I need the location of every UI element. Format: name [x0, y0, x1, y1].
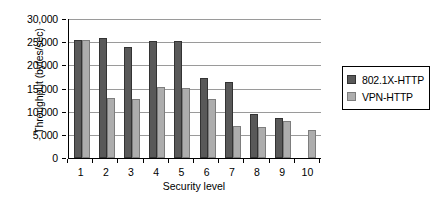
x-tick-label: 4	[144, 159, 169, 181]
x-tick-mark	[218, 159, 219, 163]
y-tick-label: 20,000	[27, 59, 58, 71]
bar	[157, 87, 165, 158]
bar	[174, 41, 182, 158]
x-tick-text: 2	[103, 166, 109, 178]
x-axis-label: Security level	[68, 180, 320, 192]
x-tick-mark	[92, 159, 93, 163]
y-tick-mark	[62, 42, 66, 43]
x-tick-label: 5	[169, 159, 194, 181]
y-tick-mark	[62, 65, 66, 66]
bar	[308, 130, 316, 158]
bar-group	[94, 19, 119, 158]
y-tick-mark	[62, 158, 66, 159]
bar	[99, 38, 107, 158]
bar-group	[271, 19, 296, 158]
legend-item: 802.1X-HTTP	[347, 71, 424, 88]
x-tick-text: 3	[128, 166, 134, 178]
legend-swatch-icon	[347, 75, 356, 84]
x-tick-text: 8	[254, 166, 260, 178]
legend-item: VPN-HTTP	[347, 88, 424, 105]
y-tick-mark	[62, 112, 66, 113]
y-tick-label: 10,000	[27, 106, 58, 118]
y-tick-label: 0	[52, 152, 58, 164]
plot-area	[68, 19, 321, 159]
x-tick-label: 6	[194, 159, 219, 181]
y-tick-mark	[62, 135, 66, 136]
bar	[233, 126, 241, 158]
x-tick-text: 9	[279, 166, 285, 178]
bar-chart-figure: Throughput (bytes/sec) 05,00010,00015,00…	[0, 0, 440, 204]
bar-groups	[69, 19, 321, 158]
x-tick-text: 1	[78, 166, 84, 178]
bar	[124, 47, 132, 158]
x-tick-mark	[168, 159, 169, 163]
legend-item-label: VPN-HTTP	[362, 91, 413, 103]
x-tick-label: 8	[244, 159, 269, 181]
x-tick-label: 2	[93, 159, 118, 181]
bar	[275, 118, 283, 158]
bar-group	[245, 19, 270, 158]
y-tick-mark	[62, 19, 66, 20]
x-tick-mark	[243, 159, 244, 163]
y-tick-label: 30,000	[27, 13, 58, 25]
x-axis-tick-labels: 12345678910	[68, 159, 320, 181]
y-tick-label: 25,000	[27, 36, 58, 48]
bar	[200, 78, 208, 158]
bar	[283, 121, 291, 158]
x-tick-mark	[117, 159, 118, 163]
bar	[149, 41, 157, 158]
x-tick-label: 1	[68, 159, 93, 181]
bar-group	[145, 19, 170, 158]
x-tick-mark	[193, 159, 194, 163]
bar	[182, 88, 190, 158]
bar-group	[69, 19, 94, 158]
bar-group	[195, 19, 220, 158]
bar	[258, 127, 266, 159]
x-tick-label: 3	[118, 159, 143, 181]
y-tick-mark	[62, 89, 66, 90]
bar-group	[296, 19, 321, 158]
bar	[74, 40, 82, 158]
legend-swatch-icon	[347, 92, 356, 101]
bar-group	[220, 19, 245, 158]
x-tick-text: 6	[204, 166, 210, 178]
legend-item-label: 802.1X-HTTP	[362, 74, 424, 86]
bar-group	[119, 19, 144, 158]
y-tick-label: 15,000	[27, 83, 58, 95]
bar	[250, 114, 258, 158]
legend: 802.1X-HTTP VPN-HTTP	[342, 66, 430, 110]
bar	[82, 40, 90, 158]
x-tick-mark	[269, 159, 270, 163]
x-tick-mark	[294, 159, 295, 163]
bar-group	[170, 19, 195, 158]
bar	[107, 98, 115, 158]
x-tick-mark	[143, 159, 144, 163]
x-axis-end-tick	[319, 159, 320, 163]
y-tick-label: 5,000	[33, 129, 58, 141]
bar	[208, 99, 216, 158]
x-tick-mark	[67, 159, 68, 163]
x-tick-text: 10	[302, 166, 314, 178]
x-tick-label: 7	[219, 159, 244, 181]
y-axis-tick-labels: 05,00010,00015,00020,00025,00030,000	[14, 19, 62, 158]
x-tick-text: 5	[178, 166, 184, 178]
x-tick-text: 4	[153, 166, 159, 178]
x-tick-label: 9	[270, 159, 295, 181]
bar	[225, 82, 233, 158]
bar	[132, 99, 140, 158]
x-tick-label: 10	[295, 159, 320, 181]
x-tick-text: 7	[229, 166, 235, 178]
